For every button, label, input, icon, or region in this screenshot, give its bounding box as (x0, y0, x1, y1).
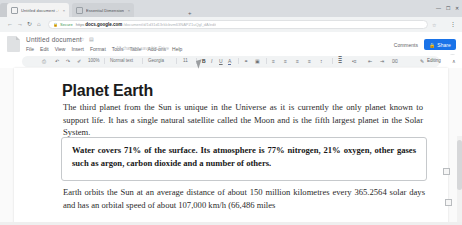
move-to-folder-icon[interactable]: ▤ (89, 36, 94, 42)
chrome-menu-icon[interactable]: ⋮ (450, 21, 456, 28)
url-host: docs.google.com (85, 22, 122, 27)
minimize-icon[interactable]: — (436, 5, 441, 11)
font-family-select[interactable]: Georgia (148, 58, 164, 63)
increase-indent-icon[interactable]: ⇥ (380, 58, 384, 64)
callout-box[interactable]: Water covers 71% of the surface. Its atm… (61, 137, 427, 181)
lock-icon: 🔒 (429, 42, 435, 48)
comments-button[interactable]: Comments (394, 42, 418, 48)
browser-tab-docs[interactable]: Untitled document - G × (7, 3, 69, 17)
window-controls: — ☐ ✕ (436, 5, 459, 11)
close-window-icon[interactable]: ✕ (455, 5, 459, 11)
align-left-icon[interactable]: ≡ (272, 58, 275, 64)
zoom-select[interactable]: 100% (88, 58, 100, 63)
home-icon[interactable]: ⌂ (37, 21, 41, 28)
share-button-label: Share (437, 42, 450, 48)
menu-item-help[interactable]: Help (172, 46, 182, 52)
align-right-icon[interactable]: ≡ (296, 58, 299, 64)
tab-close-icon[interactable]: × (63, 8, 65, 13)
page-bottom-edge (0, 222, 462, 225)
align-center-icon[interactable]: ≡ (284, 58, 287, 64)
menu-item-view[interactable]: View (55, 46, 66, 52)
toolbar-divider (142, 58, 143, 64)
document-canvas: Planet Earth The third planet from the S… (0, 68, 462, 225)
numbered-list-icon[interactable]: ≣ (338, 58, 342, 64)
decrease-indent-icon[interactable]: ⇤ (368, 58, 372, 64)
share-button[interactable]: 🔒 Share (424, 39, 456, 50)
collapse-toolbar-icon[interactable]: ∧ (452, 58, 456, 64)
menu-item-format[interactable]: Format (90, 46, 106, 52)
comment-marker[interactable] (443, 168, 450, 175)
url-scheme: https (76, 22, 85, 27)
scrollbar-thumb[interactable] (457, 140, 462, 190)
toolbar-divider (238, 58, 239, 64)
redo-icon[interactable]: ↷ (66, 58, 70, 64)
line-spacing-icon[interactable]: ↕ (320, 58, 323, 64)
editing-mode-button[interactable]: Editing (427, 58, 441, 63)
browser-window: Untitled document - G × Essential Dimens… (0, 0, 462, 225)
tab-favicon-icon (11, 7, 18, 14)
toolbar-divider (104, 58, 105, 64)
editing-mode-icon: ✎ (420, 58, 424, 64)
tab-title: Essential Dimensions (86, 8, 124, 13)
browser-tab-secondary[interactable]: Essential Dimensions × (72, 3, 134, 17)
insert-link-icon[interactable]: ⚭ (244, 58, 248, 64)
menu-item-edit[interactable]: Edit (40, 46, 49, 52)
font-size-select[interactable]: 11 (183, 58, 188, 63)
italic-button[interactable]: I (211, 58, 212, 64)
align-justify-icon[interactable]: ≡ (308, 58, 311, 64)
save-status: All changes saved in Drive (116, 46, 169, 51)
clear-formatting-icon[interactable]: ⌧ (392, 58, 398, 64)
document-paragraph-2: Earth orbits the Sun at an average dista… (63, 186, 425, 211)
browser-toolbar: ← → ↻ ⌂ 🔒 Secure https docs.google.com /… (0, 17, 462, 32)
tab-close-icon[interactable]: × (128, 8, 130, 13)
docs-toolbar: ⎙ ↶ ↷ ✐ 100% Normal text Georgia 11 B I … (0, 55, 462, 68)
docs-logo-icon[interactable] (7, 36, 20, 52)
star-icon[interactable]: ☆ (80, 36, 84, 42)
paragraph-style-select[interactable]: Normal text (110, 58, 133, 63)
browser-chrome: Untitled document - G × Essential Dimens… (0, 0, 462, 33)
comment-marker[interactable] (445, 199, 452, 206)
document-page[interactable]: Planet Earth The third planet from the S… (14, 68, 448, 225)
text-color-button[interactable]: A (228, 58, 231, 65)
lock-icon: 🔒 (53, 22, 58, 27)
maximize-icon[interactable]: ☐ (446, 5, 450, 11)
address-bar[interactable]: 🔒 Secure https docs.google.com /document… (48, 20, 428, 29)
bookmark-star-icon[interactable]: ☆ (432, 22, 436, 28)
print-icon[interactable]: ⎙ (42, 58, 46, 64)
toolbar-divider (266, 58, 267, 64)
callout-text: Water covers 71% of the surface. Its atm… (72, 144, 416, 169)
menu-item-insert[interactable]: Insert (71, 46, 84, 52)
document-heading: Planet Earth (62, 82, 153, 100)
tab-favicon-icon (76, 7, 83, 14)
secure-label: Secure (60, 22, 73, 27)
undo-icon[interactable]: ↶ (55, 58, 59, 64)
forward-arrow-icon[interactable]: → (17, 21, 23, 28)
toolbar-divider (176, 58, 177, 64)
reload-icon[interactable]: ↻ (27, 21, 32, 28)
back-arrow-icon[interactable]: ← (7, 21, 13, 28)
insert-image-icon[interactable]: ▣ (255, 58, 260, 64)
document-title[interactable]: Untitled document (26, 36, 82, 43)
toolbar-divider (332, 58, 333, 64)
tab-title: Untitled document - G (21, 8, 59, 13)
paint-format-icon[interactable]: ✐ (77, 58, 81, 64)
menu-item-file[interactable]: File (26, 46, 34, 52)
document-paragraph-1: The third planet from the Sun is unique … (63, 101, 423, 139)
tab-strip: Untitled document - G × Essential Dimens… (0, 3, 462, 17)
bulleted-list-icon[interactable]: •≡ (352, 58, 357, 64)
underline-button[interactable]: U (219, 58, 223, 64)
url-path: /document/d/1d31d13rklcbvm63NAPZ1uQgl_dA… (123, 22, 216, 27)
